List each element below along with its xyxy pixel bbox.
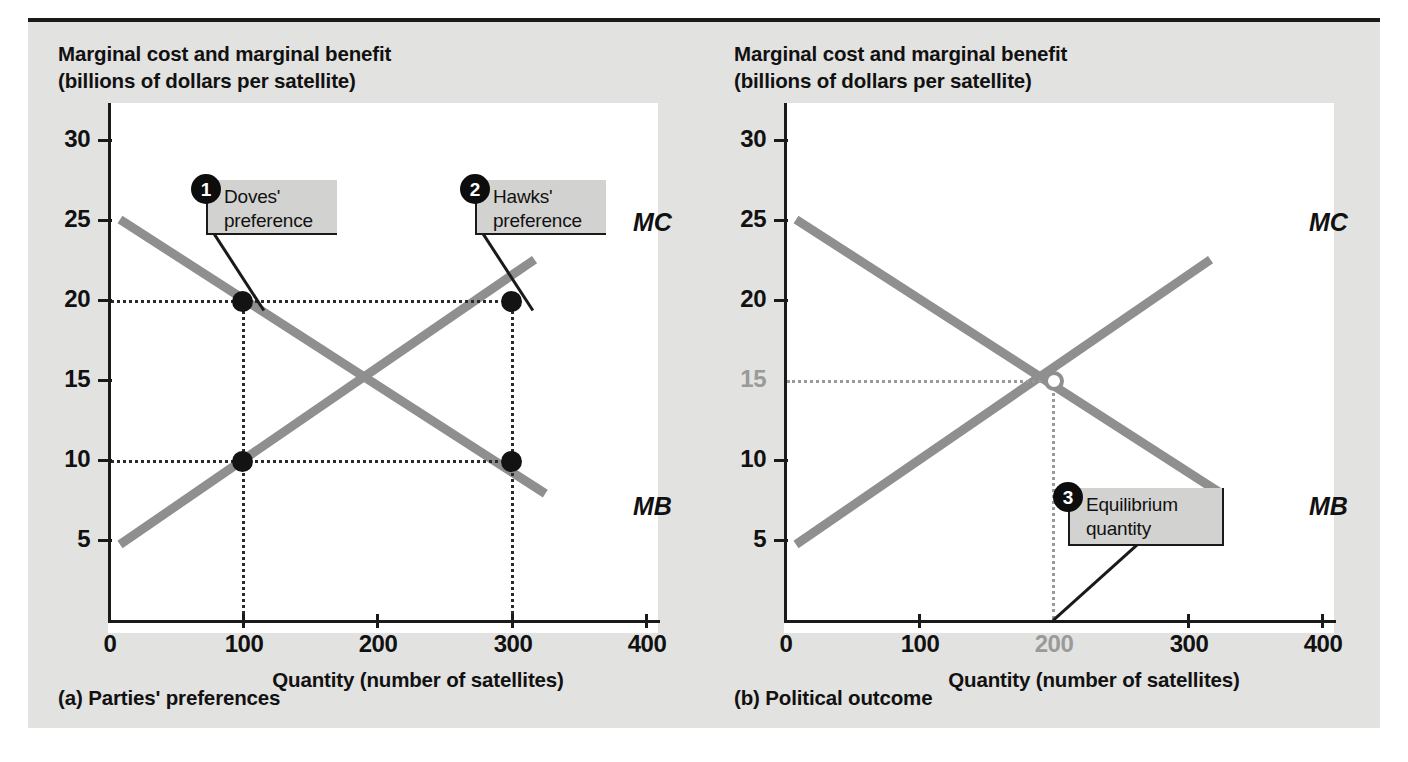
panel-a-ytick-5 xyxy=(98,539,112,542)
panel-a-x-axis xyxy=(108,620,660,623)
panel-b-xlabel-400: 400 xyxy=(1288,630,1358,658)
panel-a-caption: (a) Parties' preferences xyxy=(58,686,280,710)
panel-b-ylabel-5: 5 xyxy=(720,525,766,553)
panel-b-mc-label: MC xyxy=(1309,208,1348,237)
panel-b-y-axis-title-line1: Marginal cost and marginal benefit xyxy=(734,40,1334,67)
panel-a-refline-y20 xyxy=(111,300,498,303)
panel-a-xtick-400 xyxy=(645,614,648,628)
panel-b-xtick-100 xyxy=(918,614,921,628)
panel-a-xlabel-200: 200 xyxy=(343,630,413,658)
panel-b-callout-equilibrium-line1: Equilibrium xyxy=(1086,493,1214,517)
panel-a-callout-hawks-line2: preference xyxy=(493,209,598,233)
panel-b-xlabel-0: 0 xyxy=(751,630,821,658)
panel-a-ytick-25 xyxy=(98,219,112,222)
panel-a-xtick-300 xyxy=(511,614,514,628)
panel-a-y-axis-title: Marginal cost and marginal benefit (bill… xyxy=(58,40,658,94)
panel-b-callout-equilibrium-line2: quantity xyxy=(1086,517,1214,541)
panel-a-xtick-100 xyxy=(242,614,245,628)
panel-a-ytick-10 xyxy=(98,459,112,462)
panel-b-y-axis-title-line2: (billions of dollars per satellite) xyxy=(734,67,1334,94)
panel-a: Marginal cost and marginal benefit (bill… xyxy=(28,22,704,728)
panel-b-y-axis-title: Marginal cost and marginal benefit (bill… xyxy=(734,40,1334,94)
panel-b-x-axis xyxy=(784,620,1336,623)
panel-a-badge-2: 2 xyxy=(460,174,490,204)
panel-a-point-hawks-mb xyxy=(501,451,522,472)
panel-a-point-doves-mc xyxy=(232,451,253,472)
panel-b-ytick-20 xyxy=(774,299,788,302)
panel-a-ylabel-20: 20 xyxy=(44,285,90,313)
panel-a-callout-doves-line2: preference xyxy=(224,209,329,233)
panel-a-ytick-15 xyxy=(98,379,112,382)
panel-b-xtick-400 xyxy=(1321,614,1324,628)
panel-a-callout-hawks: Hawks' preference xyxy=(475,180,606,235)
panel-a-xlabel-400: 400 xyxy=(612,630,682,658)
panel-a-mb-label: MB xyxy=(633,492,672,521)
panel-b-badge-3: 3 xyxy=(1053,482,1083,512)
panel-a-callout-hawks-line1: Hawks' xyxy=(493,185,598,209)
panel-b-xlabel-200: 200 xyxy=(1019,630,1089,658)
panel-a-ytick-20 xyxy=(98,299,112,302)
panel-a-badge-1: 1 xyxy=(191,174,221,204)
panel-b-ylabel-20: 20 xyxy=(720,285,766,313)
panel-b-y-axis xyxy=(784,103,787,623)
panel-b-xtick-300 xyxy=(1187,614,1190,628)
panel-b-callout-equilibrium: Equilibrium quantity xyxy=(1068,488,1224,546)
panel-a-ylabel-5: 5 xyxy=(44,525,90,553)
panel-a-xtick-200 xyxy=(376,614,379,628)
panel-a-point-doves-mb xyxy=(232,291,253,312)
panel-b-ylabel-30: 30 xyxy=(720,125,766,153)
panel-b-ytick-5 xyxy=(774,539,788,542)
panel-b: Marginal cost and marginal benefit (bill… xyxy=(704,22,1380,728)
panel-a-ylabel-15: 15 xyxy=(44,365,90,393)
panel-a-ylabel-10: 10 xyxy=(44,445,90,473)
panel-a-point-hawks-mc xyxy=(501,291,522,312)
panel-a-ylabel-30: 30 xyxy=(44,125,90,153)
economics-figure: Marginal cost and marginal benefit (bill… xyxy=(0,0,1408,762)
panel-b-ylabel-15: 15 xyxy=(720,365,766,393)
panel-b-equilibrium-point xyxy=(1044,371,1064,391)
panel-b-xlabel-100: 100 xyxy=(885,630,955,658)
panel-a-ylabel-25: 25 xyxy=(44,205,90,233)
panel-a-y-axis-title-line2: (billions of dollars per satellite) xyxy=(58,67,658,94)
panel-a-ytick-30 xyxy=(98,139,112,142)
panel-b-ytick-25 xyxy=(774,219,788,222)
panel-a-callout-doves-line1: Doves' xyxy=(224,185,329,209)
panel-a-callout-doves: Doves' preference xyxy=(206,180,337,235)
panel-a-y-axis-title-line1: Marginal cost and marginal benefit xyxy=(58,40,658,67)
panel-b-mb-label: MB xyxy=(1309,492,1348,521)
panel-a-mc-label: MC xyxy=(633,208,672,237)
panel-b-ylabel-10: 10 xyxy=(720,445,766,473)
panel-b-ylabel-25: 25 xyxy=(720,205,766,233)
panel-a-xlabel-0: 0 xyxy=(75,630,145,658)
panel-b-ytick-10 xyxy=(774,459,788,462)
panel-b-caption: (b) Political outcome xyxy=(734,686,932,710)
panel-a-y-axis xyxy=(108,103,111,623)
panel-a-xlabel-100: 100 xyxy=(209,630,279,658)
panel-b-refline-y15 xyxy=(787,380,1053,383)
panel-b-ytick-30 xyxy=(774,139,788,142)
panel-b-xlabel-300: 300 xyxy=(1154,630,1224,658)
panel-a-refline-y10 xyxy=(111,460,498,463)
panel-a-xlabel-300: 300 xyxy=(478,630,548,658)
